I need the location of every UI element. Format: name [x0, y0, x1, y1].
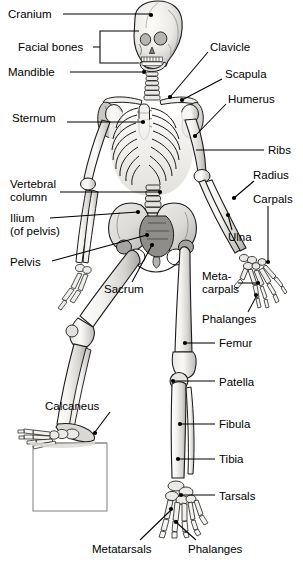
label-patella: Patella [219, 376, 254, 389]
label-fibula: Fibula [219, 418, 250, 431]
label-tarsals: Tarsals [219, 490, 255, 503]
label-pelvis: Pelvis [10, 256, 41, 269]
label-mandible: Mandible [8, 66, 55, 79]
label-sternum: Sternum [12, 112, 55, 125]
label-ribs: Ribs [268, 144, 291, 157]
label-metacarpals: Meta- carpals [202, 270, 239, 295]
label-vertebral-column: Vertebral column [10, 178, 56, 203]
label-layer: CraniumFacial bonesMandibleClavicleScapu… [0, 0, 303, 565]
label-facial-bones: Facial bones [18, 41, 83, 54]
label-scapula: Scapula [225, 68, 267, 81]
label-phalanges-foot: Phalanges [188, 543, 242, 556]
label-ilium: Ilium (of pelvis) [10, 212, 60, 237]
label-calcaneus: Calcaneus [45, 400, 99, 413]
label-humerus: Humerus [228, 93, 275, 106]
label-radius: Radius [253, 169, 289, 182]
label-cranium: Cranium [8, 8, 51, 21]
skeleton-diagram: CraniumFacial bonesMandibleClavicleScapu… [0, 0, 303, 565]
label-sacrum: Sacrum [104, 283, 144, 296]
label-femur: Femur [219, 337, 252, 350]
label-carpals: Carpals [253, 193, 293, 206]
label-metatarsals: Metatarsals [92, 543, 151, 556]
label-phalanges-hand: Phalanges [202, 313, 256, 326]
label-tibia: Tibia [219, 453, 244, 466]
label-clavicle: Clavicle [210, 41, 250, 54]
label-ulna: Ulna [228, 231, 252, 244]
